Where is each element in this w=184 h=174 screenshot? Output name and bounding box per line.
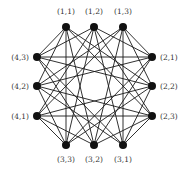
edge-32-41 bbox=[37, 116, 94, 145]
edge-31-43 bbox=[37, 57, 123, 145]
node-label-1-3: (1,3) bbox=[114, 7, 132, 16]
node-label-1-1: (1,1) bbox=[57, 7, 75, 16]
node-label-3-2: (3,2) bbox=[85, 155, 103, 164]
node-label-3-3: (3,3) bbox=[57, 155, 75, 164]
node-1-1 bbox=[62, 23, 70, 31]
edge-13-21 bbox=[123, 27, 152, 57]
edge-33-41 bbox=[37, 116, 66, 145]
node-label-4-1: (4,1) bbox=[11, 112, 29, 121]
node-label-2-2: (2,2) bbox=[160, 82, 178, 91]
edge-32-43 bbox=[37, 57, 94, 145]
node-2-3 bbox=[148, 112, 156, 120]
node-1-3 bbox=[119, 23, 127, 31]
node-label-1-2: (1,2) bbox=[85, 7, 103, 16]
edge-13-41 bbox=[37, 27, 123, 116]
edge-22-33 bbox=[66, 86, 152, 145]
edge-11-43 bbox=[37, 27, 66, 57]
node-3-3 bbox=[62, 141, 70, 149]
edge-11-23 bbox=[66, 27, 152, 116]
node-4-1 bbox=[33, 112, 41, 120]
node-3-1 bbox=[119, 141, 127, 149]
node-label-3-1: (3,1) bbox=[114, 155, 132, 164]
edge-31-42 bbox=[37, 86, 123, 145]
node-label-2-3: (2,3) bbox=[160, 112, 178, 121]
edge-21-33 bbox=[66, 57, 152, 145]
node-label-2-1: (2,1) bbox=[160, 53, 178, 62]
node-4-2 bbox=[33, 82, 41, 90]
node-label-4-2: (4,2) bbox=[11, 82, 29, 91]
graph-diagram: (1,1)(1,2)(1,3)(2,1)(2,2)(2,3)(3,1)(3,2)… bbox=[0, 0, 184, 174]
node-4-3 bbox=[33, 53, 41, 61]
node-label-4-3: (4,3) bbox=[11, 53, 29, 62]
edge-23-31 bbox=[123, 116, 152, 145]
node-3-2 bbox=[90, 141, 98, 149]
edge-13-22 bbox=[123, 27, 152, 86]
edges-group bbox=[37, 27, 152, 145]
node-2-1 bbox=[148, 53, 156, 61]
node-1-2 bbox=[90, 23, 98, 31]
node-2-2 bbox=[148, 82, 156, 90]
